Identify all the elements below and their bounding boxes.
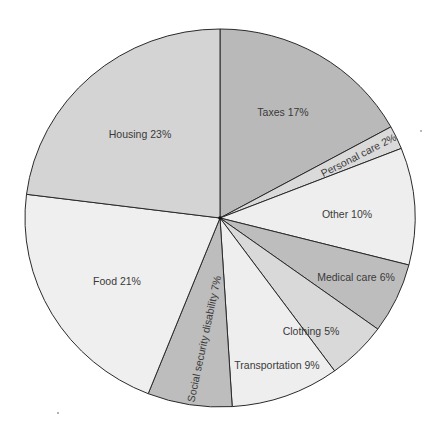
slice-label-food: Food 21%: [93, 275, 141, 287]
pie-center-dot: [218, 216, 222, 220]
slice-label-housing: Housing 23%: [109, 128, 171, 140]
slice-label-clothing: Clothing 5%: [283, 325, 340, 337]
slice-label-other: Other 10%: [322, 208, 372, 220]
slice-label-taxes: Taxes 17%: [257, 106, 308, 118]
slice-label-medical-care: Medical care 6%: [317, 271, 395, 283]
slice-label-transportation: Transportation 9%: [234, 359, 319, 371]
pie-chart: Taxes 17%Personal care 2%Other 10%Medica…: [0, 0, 445, 425]
scan-speck: [420, 130, 422, 132]
scan-speck: [57, 412, 59, 414]
pie-slice-housing: [27, 29, 221, 218]
